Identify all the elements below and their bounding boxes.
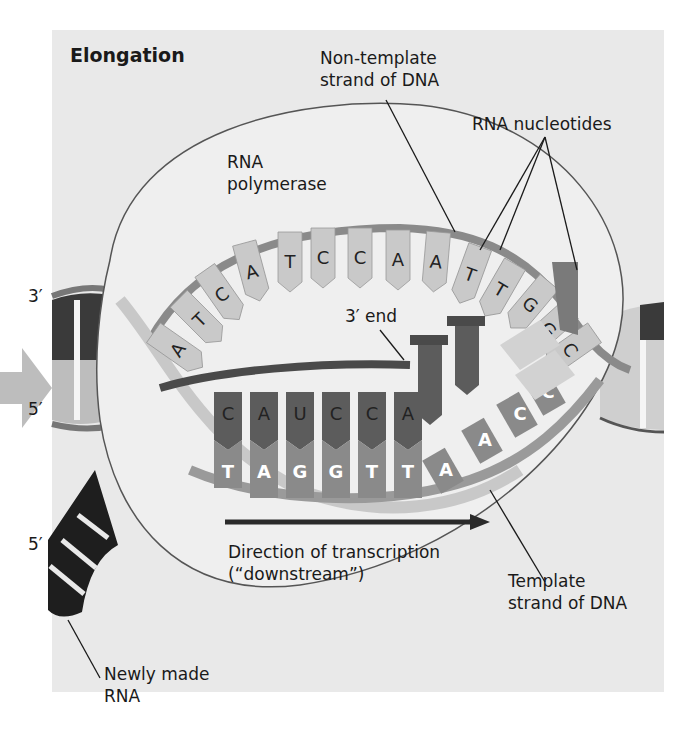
template-label-line2: strand of DNA bbox=[508, 593, 627, 613]
svg-text:G: G bbox=[329, 461, 344, 482]
svg-text:T: T bbox=[366, 461, 379, 482]
base-pair-column: AT bbox=[394, 392, 422, 498]
svg-text:C: C bbox=[222, 403, 235, 424]
template-base-letter: C bbox=[513, 403, 526, 424]
template-base-letter: A bbox=[439, 459, 453, 480]
svg-text:C: C bbox=[366, 403, 379, 424]
five-prime-label-mid: 5′ bbox=[28, 399, 43, 419]
non-template-base: C bbox=[311, 228, 335, 288]
non-template-base: C bbox=[348, 228, 372, 288]
svg-text:G: G bbox=[293, 461, 308, 482]
rna-polymerase-label-line2: polymerase bbox=[227, 174, 327, 194]
newly-made-rna-label-line1: Newly made bbox=[104, 664, 210, 684]
svg-text:C: C bbox=[317, 247, 330, 268]
svg-text:C: C bbox=[354, 247, 367, 268]
non-template-base: A bbox=[386, 230, 410, 290]
non-template-label-line2: strand of DNA bbox=[320, 70, 439, 90]
newly-made-rna-label-line2: RNA bbox=[104, 686, 141, 706]
three-prime-end-label: 3′ end bbox=[345, 306, 397, 326]
svg-text:T: T bbox=[402, 461, 415, 482]
svg-text:A: A bbox=[257, 461, 271, 482]
base-pair-column: UG bbox=[286, 392, 314, 498]
non-template-label-line1: Non-template bbox=[320, 48, 437, 68]
five-prime-label-low: 5′ bbox=[28, 534, 43, 554]
incoming-arrow-icon bbox=[0, 348, 52, 428]
base-pair-column: CT bbox=[358, 392, 386, 498]
svg-text:A: A bbox=[402, 403, 415, 424]
base-pair-column: AA bbox=[250, 392, 278, 498]
svg-text:A: A bbox=[392, 249, 405, 270]
diagram-title: Elongation bbox=[70, 44, 185, 66]
direction-label-line2: (“downstream”) bbox=[228, 564, 364, 584]
transcription-elongation-diagram: ATCATCCAATTGGC CTAAUGCGCTATAUUAACC Elong… bbox=[0, 0, 697, 730]
non-template-base: T bbox=[278, 232, 302, 292]
svg-text:A: A bbox=[258, 403, 271, 424]
three-prime-label-top: 3′ bbox=[28, 286, 43, 306]
svg-text:U: U bbox=[293, 403, 306, 424]
base-pair-column: CT bbox=[214, 392, 242, 488]
rna-nucleotides-label: RNA nucleotides bbox=[472, 114, 612, 134]
svg-text:C: C bbox=[330, 403, 343, 424]
svg-text:A: A bbox=[429, 251, 444, 273]
base-pair-column: CG bbox=[322, 392, 350, 498]
svg-text:T: T bbox=[222, 461, 235, 482]
template-base-letter: A bbox=[478, 429, 492, 450]
direction-label-line1: Direction of transcription bbox=[228, 542, 440, 562]
template-label-line1: Template bbox=[507, 571, 586, 591]
newly-made-rna-strand bbox=[48, 470, 118, 617]
svg-text:T: T bbox=[284, 251, 297, 272]
rna-polymerase-label-line1: RNA bbox=[227, 152, 264, 172]
